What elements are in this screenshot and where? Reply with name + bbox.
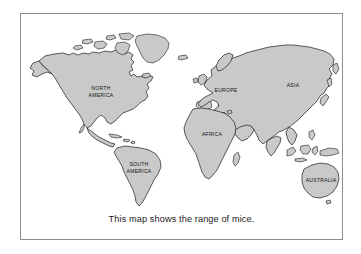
lesser-antilles xyxy=(131,141,135,144)
baja-california xyxy=(79,124,84,133)
africa-landmass xyxy=(184,108,236,179)
map-frame: NORTH AMERICA SOUTH AMERICA EUROPE ASIA … xyxy=(20,13,343,240)
continent-label-south-america: SOUTH AMERICA xyxy=(127,161,152,174)
iceland-island xyxy=(178,55,188,60)
label-north-america-line1: NORTH xyxy=(91,85,110,91)
south-america-landmass xyxy=(114,146,161,206)
sumatra-island xyxy=(287,147,296,156)
continent-label-asia: ASIA xyxy=(287,82,300,88)
label-north-america-line2: AMERICA xyxy=(89,92,114,98)
victoria-island xyxy=(94,41,107,49)
greenland xyxy=(135,34,169,63)
arctic-island-b xyxy=(106,35,116,40)
central-america xyxy=(87,128,115,147)
continent-label-europe: EUROPE xyxy=(214,87,237,93)
philippines-islands xyxy=(309,130,315,140)
label-south-america-line1: SOUTH xyxy=(129,161,148,167)
java-island xyxy=(295,158,307,162)
map-figure: NORTH AMERICA SOUTH AMERICA EUROPE ASIA … xyxy=(0,0,361,254)
sulawesi-island xyxy=(312,146,318,155)
arctic-island-c xyxy=(73,45,83,50)
japan-islands xyxy=(320,94,329,106)
ellesmere-island xyxy=(119,33,134,40)
madagascar-island xyxy=(233,152,240,166)
borneo-island xyxy=(300,145,311,154)
map-caption: This map shows the range of mice. xyxy=(21,214,342,224)
label-africa: AFRICA xyxy=(202,131,223,137)
new-guinea-island xyxy=(320,148,339,156)
label-europe: EUROPE xyxy=(214,87,237,93)
label-asia: ASIA xyxy=(287,82,300,88)
ireland-island xyxy=(193,78,198,83)
label-australia: AUSTRALIA xyxy=(306,177,337,183)
continent-label-australia: AUSTRALIA xyxy=(306,177,337,183)
kamchatka-peninsula xyxy=(333,63,339,74)
indochina-peninsula xyxy=(286,127,297,145)
arctic-island-a xyxy=(82,39,93,44)
hispaniola-island xyxy=(123,139,130,142)
label-south-america-line2: AMERICA xyxy=(127,168,152,174)
mediterranean-island xyxy=(227,110,232,114)
tasmania-island xyxy=(326,200,331,204)
continent-label-africa: AFRICA xyxy=(202,131,223,137)
world-map-graphic: NORTH AMERICA SOUTH AMERICA EUROPE ASIA … xyxy=(21,14,342,210)
continent-label-north-america: NORTH AMERICA xyxy=(89,85,114,98)
cuba-island xyxy=(109,134,122,138)
